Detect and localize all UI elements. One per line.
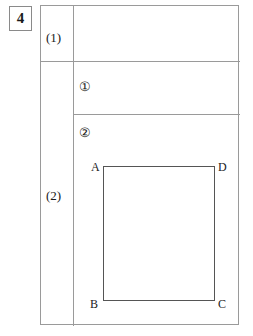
vertex-label-d: D [218, 161, 227, 173]
table-subrow-divider [73, 114, 240, 115]
rectangle-abcd-figure [103, 166, 215, 301]
row-label-question-2: (2) [46, 189, 61, 202]
subrow-marker-circled-two: ② [79, 126, 91, 139]
vertex-label-c: C [218, 298, 226, 310]
problem-number-label: 4 [17, 11, 25, 26]
problem-number-box: 4 [9, 6, 32, 31]
row-label-question-1: (1) [46, 31, 61, 44]
table-row-divider-1 [41, 61, 240, 62]
answer-table: (1) (2) ① ② A D B C [40, 5, 239, 325]
subrow-marker-circled-one: ① [79, 80, 91, 93]
vertex-label-a: A [91, 161, 100, 173]
vertex-label-b: B [90, 298, 98, 310]
table-column-divider [73, 6, 74, 326]
